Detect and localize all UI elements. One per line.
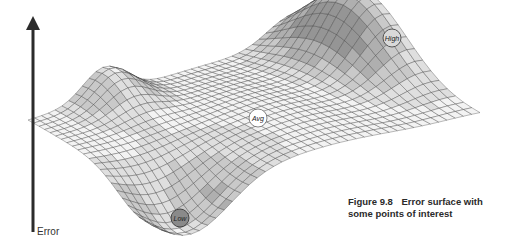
error-surface-figure: High Avg Low Error Figure 9.8 Error surf…	[0, 0, 511, 249]
arrow-up-icon	[26, 16, 40, 30]
caption-line-2: some points of interest	[348, 208, 508, 220]
point-high: High	[383, 29, 401, 47]
error-axis-label: Error	[37, 226, 59, 237]
caption-line-1: Error surface with	[402, 196, 483, 207]
point-high-label: High	[385, 35, 400, 43]
figure-number: Figure 9.8	[348, 196, 393, 207]
point-low: Low	[171, 209, 189, 227]
point-avg-label: Avg	[251, 115, 264, 123]
point-avg: Avg	[249, 109, 267, 127]
figure-caption: Figure 9.8 Error surface with some point…	[348, 196, 508, 220]
point-low-label: Low	[174, 215, 188, 222]
